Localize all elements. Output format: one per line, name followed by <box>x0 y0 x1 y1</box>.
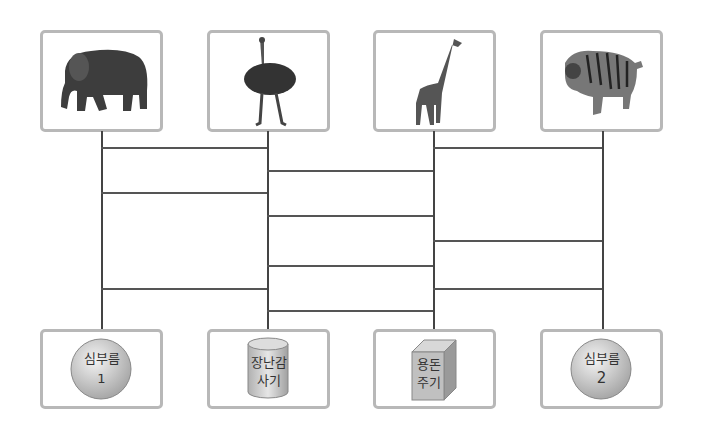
ladder-rung <box>267 265 433 267</box>
ladder-rung <box>267 310 433 312</box>
result-label-line1: 장난감 <box>210 354 327 371</box>
ladder-rung <box>267 170 433 172</box>
result-label-line1: 용돈 <box>370 356 487 373</box>
giraffe-icon <box>376 33 493 129</box>
result-label-line2: 2 <box>543 370 660 387</box>
ladder-line-2 <box>267 131 269 330</box>
result-label-line1: 심부름 <box>43 350 160 367</box>
animal-box-ostrich <box>207 30 330 132</box>
result-label-line2: 주기 <box>370 374 487 391</box>
ladder-rung <box>101 192 267 194</box>
ladder-rung <box>433 147 602 149</box>
ladder-line-3 <box>433 131 435 330</box>
result-box-4: 심부름 2 <box>540 329 663 409</box>
ladder-rung <box>433 288 602 290</box>
result-label-line2: 사기 <box>210 372 327 389</box>
sphere-icon <box>43 332 160 406</box>
animal-box-tiger <box>540 30 663 132</box>
result-label-line1: 심부름 <box>543 350 660 367</box>
elephant-icon <box>43 33 160 129</box>
ladder-rung <box>101 288 267 290</box>
ostrich-icon <box>210 33 327 129</box>
ladder-line-4 <box>602 131 604 330</box>
animal-box-elephant <box>40 30 163 132</box>
ladder-rung <box>267 215 433 217</box>
ladder-rung <box>101 147 267 149</box>
result-box-3: 용돈 주기 <box>373 329 496 409</box>
ladder-line-1 <box>101 131 103 330</box>
animal-box-giraffe <box>373 30 496 132</box>
tiger-icon <box>543 33 660 129</box>
result-box-1: 심부름 1 <box>40 329 163 409</box>
result-box-2: 장난감 사기 <box>207 329 330 409</box>
ladder-rung <box>433 240 602 242</box>
result-label-line2: 1 <box>43 370 160 387</box>
